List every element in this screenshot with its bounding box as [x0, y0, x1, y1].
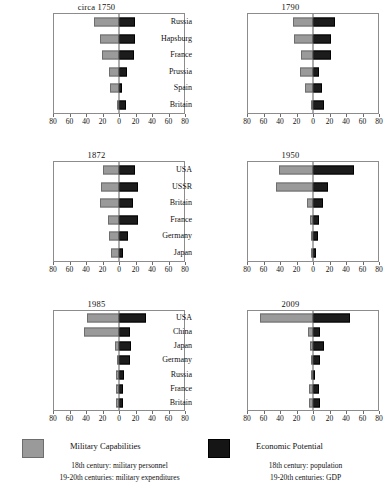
economic-potential-swatch — [208, 439, 230, 458]
panel-title: 1950 — [194, 150, 387, 161]
legend-note-economic-1: 18th century: population — [198, 460, 383, 472]
category-label: USSR — [172, 183, 192, 191]
panel-grid: circa 1750FranceRussiaHapsburgBritainPru… — [0, 0, 387, 432]
economic-potential-bar — [119, 18, 135, 27]
military-capabilities-bar — [279, 166, 313, 175]
economic-potential-bar — [119, 215, 138, 224]
military-capabilities-bar — [300, 67, 313, 76]
category-label: Russia — [171, 371, 192, 379]
economic-potential-bar — [313, 215, 319, 224]
axis-tick-label: 40 — [276, 117, 284, 127]
axis-tick-label: 40 — [82, 414, 90, 424]
axis-tick-label: 20 — [99, 117, 107, 127]
axis-tick-label: 40 — [148, 265, 156, 275]
category-label: USA — [176, 314, 192, 322]
axis-tick-label: 60 — [165, 414, 173, 424]
economic-potential-bar — [313, 328, 320, 337]
chart-figure: circa 1750FranceRussiaHapsburgBritainPru… — [0, 0, 387, 498]
economic-potential-bar — [119, 384, 123, 393]
x-axis: 80604020020406080 — [247, 411, 379, 431]
axis-tick-label: 60 — [260, 265, 268, 275]
economic-potential-bar — [313, 314, 350, 323]
plot-area: FranceRussiaHapsburgBritainPrussiaSpain — [53, 13, 185, 114]
axis-tick-label: 20 — [326, 117, 334, 127]
axis-tick-label: 60 — [359, 117, 367, 127]
chart-panel-1790: 1790RussiaHapsburgFrancePrussiaSpainBrit… — [194, 2, 387, 146]
category-label: Prussia — [169, 68, 192, 76]
axis-tick-label: 40 — [148, 414, 156, 424]
x-axis: 80604020020406080 — [53, 411, 185, 431]
axis-tick-label: 20 — [132, 117, 140, 127]
economic-potential-bar — [313, 356, 320, 365]
economic-potential-bar — [119, 51, 134, 60]
axis-tick-label: 80 — [375, 414, 383, 424]
economic-potential-bar — [313, 100, 324, 109]
chart-legend: Military Capabilities 18th century: mili… — [0, 436, 387, 492]
axis-tick-label: 80 — [181, 414, 189, 424]
category-label: Russia — [171, 18, 192, 26]
economic-potential-bar — [313, 384, 319, 393]
category-label: Germany — [162, 356, 192, 364]
legend-entry-military: Military Capabilities 18th century: mili… — [12, 436, 197, 483]
axis-tick-label: 20 — [293, 414, 301, 424]
economic-potential-bar — [119, 199, 133, 208]
category-label: Britain — [170, 399, 192, 407]
economic-potential-bar — [313, 199, 323, 208]
panel-title: circa 1750 — [0, 2, 193, 13]
legend-title-military: Military Capabilities — [70, 441, 141, 452]
economic-potential-bar — [313, 34, 331, 43]
panel-title: 2009 — [194, 299, 387, 310]
economic-potential-bar — [119, 248, 123, 257]
axis-tick-label: 80 — [49, 117, 57, 127]
axis-tick-label: 20 — [99, 265, 107, 275]
chart-panel-circa-1750: circa 1750FranceRussiaHapsburgBritainPru… — [0, 2, 193, 146]
axis-tick-label: 0 — [311, 117, 315, 127]
axis-tick-label: 40 — [342, 265, 350, 275]
axis-tick-label: 40 — [82, 265, 90, 275]
military-capabilities-bar — [108, 215, 119, 224]
axis-tick-label: 60 — [165, 117, 173, 127]
axis-tick-label: 80 — [49, 414, 57, 424]
category-label: China — [173, 328, 192, 336]
legend-entry-economic: Economic Potential 18th century: populat… — [198, 436, 383, 483]
category-label: France — [170, 216, 192, 224]
axis-tick-label: 20 — [326, 414, 334, 424]
military-capabilities-bar — [260, 314, 313, 323]
axis-tick-label: 40 — [342, 414, 350, 424]
axis-tick-label: 80 — [181, 265, 189, 275]
axis-tick-label: 40 — [148, 117, 156, 127]
x-axis: 80604020020406080 — [53, 262, 185, 282]
military-capabilities-swatch — [22, 439, 44, 458]
military-capabilities-bar — [276, 182, 313, 191]
axis-tick-label: 80 — [243, 117, 251, 127]
axis-tick-label: 80 — [181, 117, 189, 127]
chart-panel-1872: 1872RussiaBritainFranceUSAPrussiaAustria… — [0, 150, 193, 294]
category-label: USA — [176, 166, 192, 174]
zero-axis-line — [313, 14, 314, 113]
category-label: Japan — [174, 342, 192, 350]
plot-area: USAChinaJapanGermanyRussiaFranceBritain — [247, 310, 379, 411]
legend-title-economic: Economic Potential — [256, 441, 323, 452]
military-capabilities-bar — [100, 199, 119, 208]
military-capabilities-bar — [100, 34, 119, 43]
economic-potential-bar — [119, 328, 130, 337]
panel-title: 1872 — [0, 150, 193, 161]
economic-potential-bar — [119, 342, 131, 351]
economic-potential-bar — [313, 84, 322, 93]
economic-potential-bar — [119, 34, 135, 43]
axis-tick-label: 60 — [66, 117, 74, 127]
military-capabilities-bar — [101, 182, 119, 191]
axis-tick-label: 80 — [375, 265, 383, 275]
military-capabilities-bar — [293, 18, 313, 27]
category-label: Britain — [170, 101, 192, 109]
economic-potential-bar — [313, 51, 331, 60]
axis-tick-label: 0 — [117, 414, 121, 424]
plot-area: USAUSSRBritainFranceGermanyJapan — [247, 161, 379, 262]
economic-potential-bar — [313, 232, 318, 241]
x-axis: 80604020020406080 — [247, 262, 379, 282]
chart-panel-1950: 1950USAUSSRBritainFranceGermanyJapan8060… — [194, 150, 387, 294]
panel-title: 1790 — [194, 2, 387, 13]
economic-potential-bar — [119, 182, 138, 191]
economic-potential-bar — [119, 100, 126, 109]
category-label: Britain — [170, 199, 192, 207]
